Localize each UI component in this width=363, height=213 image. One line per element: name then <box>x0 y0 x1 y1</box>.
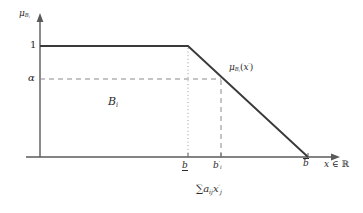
region-label-sub: i <box>116 101 118 109</box>
region-label-bi: Bi <box>108 96 118 107</box>
ytick-label-alpha: α <box>28 73 35 83</box>
xtick-label-b-upper: b <box>303 159 309 168</box>
y-axis-label-subsub: i <box>29 15 30 19</box>
point-annotation-mu-bi-xprime: μBi(x′) <box>229 63 253 72</box>
annotation-paren-close: ) <box>250 62 254 72</box>
region-label-letter: B <box>108 95 116 108</box>
ytick-label-one: 1 <box>30 40 36 50</box>
x-axis-label: x ∈ ℝ <box>324 160 349 169</box>
xtick-label-b-upper-text: b <box>303 159 309 168</box>
xtick-label-b-lower-text: b <box>182 161 188 170</box>
xtick-label-b-prime-sub: i <box>220 164 222 170</box>
x-axis-label-member: ∈ <box>332 159 339 169</box>
x-axis-label-var: x <box>324 159 329 169</box>
chart-caption-formula: ∑aijx′j <box>196 184 222 194</box>
y-axis-label: μBi <box>19 9 30 18</box>
caption-x-sub: j <box>220 188 222 195</box>
xtick-label-b-lower: b <box>182 161 188 170</box>
fuzzy-membership-chart <box>0 0 363 213</box>
chart-background <box>0 0 363 213</box>
xtick-label-b-prime-i: b′i <box>213 161 222 170</box>
x-axis-label-set: ℝ <box>342 159 349 169</box>
